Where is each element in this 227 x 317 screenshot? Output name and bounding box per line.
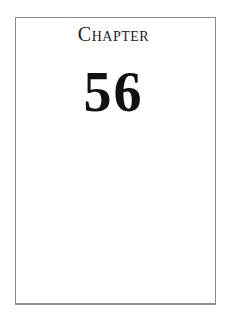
chapter-number: 56 (0, 64, 227, 120)
chapter-label: Chapter (0, 24, 227, 44)
